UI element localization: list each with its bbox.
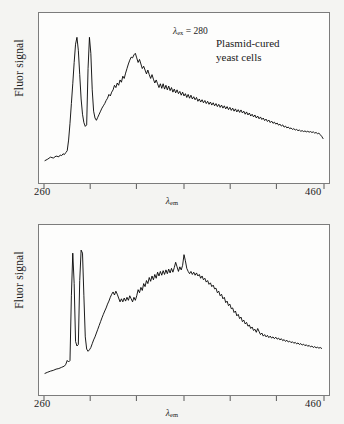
spectrum-trace-bottom (39, 225, 329, 395)
panel-plasmid-containing: Fluor signal 260 460 λem Plasmid-contain… (0, 212, 344, 424)
excitation-equals: = (183, 26, 193, 36)
y-axis-label-bottom: Fluor signal (13, 225, 25, 335)
sample-label-top: Plasmid-curedyeast cells (216, 37, 280, 65)
sample-label-top-line2: yeast cells (216, 51, 280, 65)
x-axis-label-sub-bottom: em (170, 411, 178, 418)
excitation-value: 280 (194, 26, 208, 36)
plot-frame-bottom (38, 224, 330, 396)
sample-label-top-line1: Plasmid-cured (216, 37, 280, 49)
excitation-annotation: λex = 280 (173, 26, 208, 36)
spectrum-trace-top (39, 13, 329, 183)
x-axis-label-sub-top: em (170, 199, 178, 206)
y-axis-label-top: Fluor signal (13, 13, 25, 123)
panel-plasmid-cured: Fluor signal 260 460 λem λex = 280 Plasm… (0, 0, 344, 212)
x-axis-label-bottom: λem (0, 408, 344, 418)
plot-frame-top (38, 12, 330, 184)
x-axis-label-top: λem (0, 196, 344, 206)
fluorescence-spectra-figure: Fluor signal 260 460 λem λex = 280 Plasm… (0, 0, 344, 424)
